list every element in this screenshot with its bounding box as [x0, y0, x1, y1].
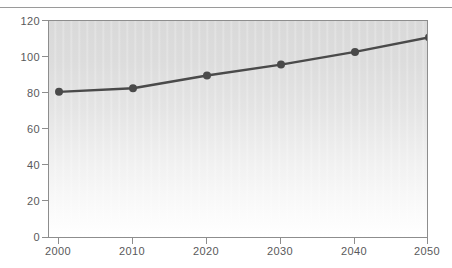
- x-tick-mark-2030: [280, 238, 281, 244]
- header-divider-rule: [0, 7, 452, 8]
- data-point-2010: [129, 84, 137, 92]
- x-tick-label-2010: 2010: [102, 245, 162, 257]
- y-axis-labels: 120 100 80 60 40 20 0: [0, 0, 40, 268]
- x-tick-label-2050: 2050: [397, 245, 452, 257]
- data-point-2030: [277, 61, 285, 69]
- x-tick-label-2000: 2000: [28, 245, 88, 257]
- x-tick-mark-2050: [427, 238, 428, 244]
- y-tick-label-60: 60: [6, 123, 40, 135]
- x-tick-label-2030: 2030: [250, 245, 310, 257]
- line-chart-figure: 120 100 80 60 40 20 0 2000 2010 2020 203…: [0, 0, 452, 268]
- x-tick-label-2040: 2040: [324, 245, 384, 257]
- x-tick-mark-2040: [354, 238, 355, 244]
- x-tick-label-2020: 2020: [176, 245, 236, 257]
- y-tick-label-40: 40: [6, 159, 40, 171]
- data-series-layer: [49, 21, 428, 238]
- y-tick-label-0: 0: [6, 231, 40, 243]
- data-point-2020: [203, 72, 211, 80]
- series-line-path: [59, 37, 428, 92]
- series-markers-group: [55, 33, 428, 96]
- y-tick-label-20: 20: [6, 195, 40, 207]
- plot-area: [48, 20, 428, 238]
- data-point-2040: [351, 48, 359, 56]
- x-tick-mark-2010: [132, 238, 133, 244]
- x-tick-mark-2020: [206, 238, 207, 244]
- y-tick-label-120: 120: [6, 15, 40, 27]
- y-tick-label-80: 80: [6, 87, 40, 99]
- x-tick-mark-2000: [58, 238, 59, 244]
- data-point-2000: [55, 88, 63, 96]
- y-tick-label-100: 100: [6, 51, 40, 63]
- data-point-2050: [425, 33, 428, 41]
